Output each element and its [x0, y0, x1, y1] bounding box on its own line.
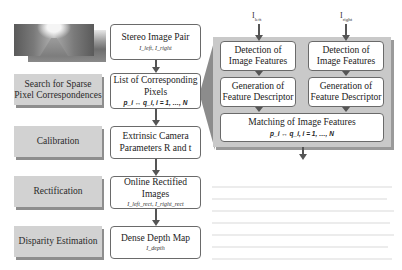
flow-box-title: Online Rectified Images — [111, 177, 200, 200]
stage-label-text: Disparity Estimation — [19, 236, 98, 247]
matching-formula: p_i ↔ q_i, i = 1, …, N — [270, 129, 334, 138]
flow-box-subtitle: I_left, I_right — [139, 44, 171, 52]
flow-box-title: Pixels — [144, 87, 167, 99]
stage-label-text: Calibration — [37, 136, 80, 147]
stage-label-rectification: Rectification — [14, 176, 102, 207]
stereo-photo — [14, 24, 106, 62]
generate-descriptor-right: Generation of Feature Descriptor — [308, 77, 384, 107]
input-label-right: Iright — [340, 11, 352, 22]
flow-box-depth-map: Dense Depth Map I_depth — [110, 226, 201, 259]
flow-box-formula: p_i ↔ q_i, i = 1, …, N — [124, 98, 188, 107]
detect-features-left: Detection of Image Features — [220, 41, 296, 71]
flow-box-title: Extrinsic Camera — [122, 131, 188, 143]
flow-box-rectified-images: Online Rectified Images I_left_rect, I_r… — [110, 176, 201, 209]
stage-label-text: Search for Sparse — [24, 79, 91, 90]
flow-box-corresponding-pixels: List of Corresponding Pixels p_i ↔ q_i, … — [110, 73, 201, 109]
flow-box-stereo-pair: Stereo Image Pair I_left, I_right — [110, 24, 201, 60]
flow-box-title: List of Corresponding — [114, 75, 198, 87]
generate-descriptor-left: Generation of Feature Descriptor — [220, 77, 296, 107]
stage-label-disparity: Disparity Estimation — [14, 226, 102, 257]
stage-label-calibration: Calibration — [14, 126, 102, 157]
stage-label-search: Search for Sparse Pixel Correspondences — [14, 74, 102, 105]
input-label-left: Ileft — [252, 11, 261, 22]
flow-box-subtitle: I_left_rect, I_right_rect — [127, 200, 184, 208]
flow-box-extrinsic-params: Extrinsic Camera Parameters R and t — [110, 126, 201, 159]
stage-label-text: Pixel Correspondences — [14, 90, 101, 101]
detect-features-right: Detection of Image Features — [308, 41, 384, 71]
flow-box-title: Stereo Image Pair — [121, 32, 189, 44]
flow-box-subtitle: I_depth — [146, 244, 164, 252]
street-photo-icon — [14, 24, 94, 56]
flow-box-title: Parameters R and t — [119, 143, 191, 155]
flow-box-title: Dense Depth Map — [121, 233, 190, 245]
stage-label-text: Rectification — [33, 186, 82, 197]
matching-features-box: Matching of Image Features p_i ↔ q_i, i … — [220, 113, 384, 142]
